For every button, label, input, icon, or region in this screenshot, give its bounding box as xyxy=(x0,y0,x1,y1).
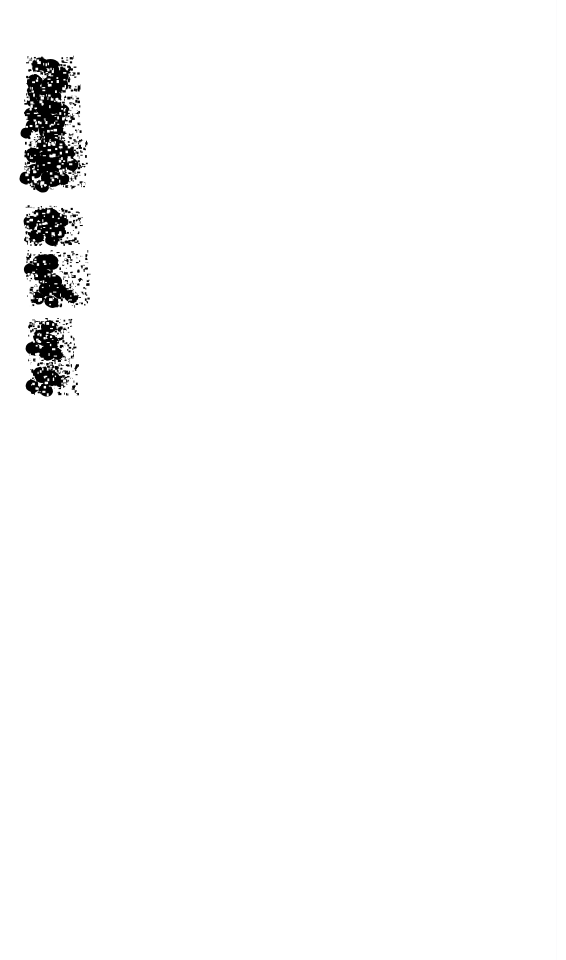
scanned-page: Heavily thresholded scan fragment: dense… xyxy=(0,0,566,960)
speckles-line-group-7 xyxy=(30,362,79,396)
empty-page-body xyxy=(0,400,566,960)
scan-surface xyxy=(0,0,566,960)
